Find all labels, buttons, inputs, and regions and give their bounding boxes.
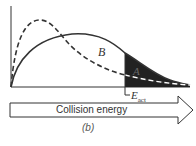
arrow-label: Collision energy bbox=[56, 104, 127, 115]
distribution-diagram bbox=[0, 0, 196, 146]
eact-label: Eact bbox=[131, 89, 146, 104]
label-b: B bbox=[98, 45, 105, 60]
label-a: A bbox=[133, 65, 140, 77]
figure-caption: (b) bbox=[82, 122, 94, 133]
